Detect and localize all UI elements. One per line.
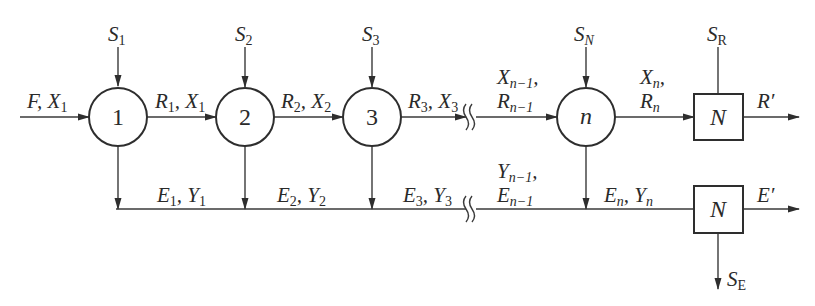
solvent-recovery-label-r: SR xyxy=(707,22,728,48)
raffinate-label-n-line2: Rn xyxy=(639,89,660,115)
raffinate-break-mark xyxy=(464,104,475,130)
raffinate-recovery-box: N xyxy=(694,94,743,140)
extract-label-1: E1, Y1 xyxy=(156,183,206,209)
stage-node-1: 1 xyxy=(89,88,147,146)
svg-text:N: N xyxy=(709,104,728,130)
svg-text:1: 1 xyxy=(112,104,124,130)
raffinate-label-1: R1, X1 xyxy=(154,89,205,115)
raffinate-label-2: R2, X2 xyxy=(280,89,331,115)
extract-label-n-minus-1-line1: Yn−1, xyxy=(497,159,537,185)
svg-text:3: 3 xyxy=(366,104,378,130)
extract-label-3: E3, Y3 xyxy=(402,183,452,209)
solvent-label-3: S3 xyxy=(362,22,380,48)
stage-node-n: n xyxy=(557,88,615,146)
raffinate-label-3: R3, X3 xyxy=(407,89,458,115)
extract-product-label: E′ xyxy=(756,183,775,207)
extraction-flow-diagram: S1 S2 S3 SN SR F, X1 R1, X1 R2, X2 R3, X… xyxy=(0,0,815,306)
extract-recovery-box: N xyxy=(694,186,743,233)
extract-label-n: En, Yn xyxy=(603,183,653,209)
svg-text:N: N xyxy=(709,196,728,222)
stage-node-2: 2 xyxy=(216,88,274,146)
raffinate-label-n-minus-1-line1: Xn−1, xyxy=(496,65,539,91)
solvent-label-1: S1 xyxy=(108,22,126,48)
svg-text:2: 2 xyxy=(239,104,251,130)
raffinate-label-n-line1: Xn, xyxy=(639,65,665,91)
extract-label-2: E2, Y2 xyxy=(276,183,326,209)
svg-text:n: n xyxy=(580,103,592,129)
stage-node-3: 3 xyxy=(343,88,401,146)
feed-label: F, X1 xyxy=(26,89,67,115)
solvent-label-n: SN xyxy=(574,22,595,48)
raffinate-product-label: R′ xyxy=(756,89,775,113)
extract-label-n-minus-1-line2: En−1 xyxy=(496,183,533,209)
raffinate-label-n-minus-1-line2: Rn−1 xyxy=(496,89,533,115)
extract-break-mark xyxy=(464,196,475,222)
solvent-label-2: S2 xyxy=(235,22,253,48)
solvent-recovery-label-e: SE xyxy=(727,267,746,293)
